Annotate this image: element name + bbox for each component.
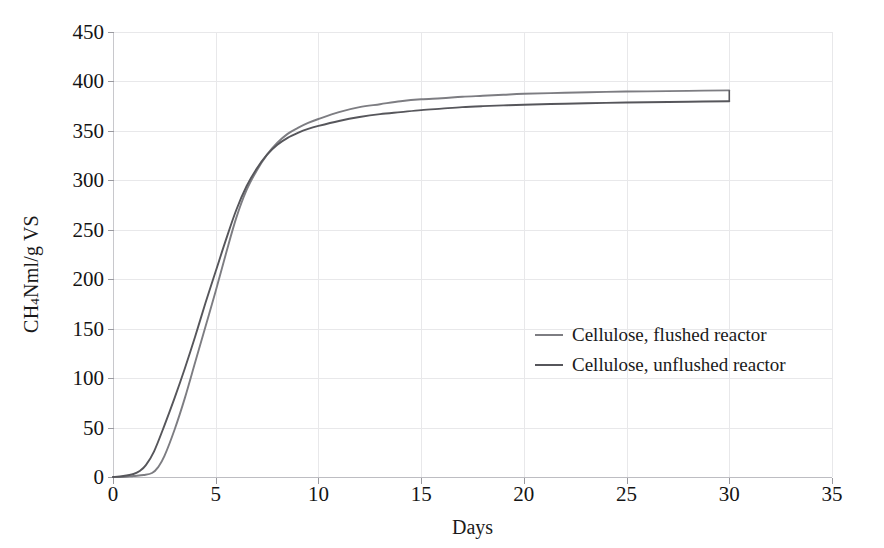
y-axis-tick-mark — [108, 81, 114, 82]
x-axis-tick-label: 20 — [499, 484, 549, 505]
legend-item-unflushed: Cellulose, unflushed reactor — [535, 355, 786, 374]
x-axis-tick-label: 5 — [191, 484, 241, 505]
x-axis-tick-mark — [832, 478, 833, 484]
y-axis-title-suffix: Nml/g VS — [20, 215, 43, 298]
gridline-horizontal — [113, 230, 832, 231]
y-axis-tick-label: 350 — [42, 120, 104, 141]
gridline-vertical — [216, 32, 217, 477]
legend-label-unflushed: Cellulose, unflushed reactor — [572, 355, 786, 374]
x-axis-tick-mark — [421, 478, 422, 484]
y-axis-tick-mark — [108, 428, 114, 429]
x-axis-tick-label: 10 — [293, 484, 343, 505]
y-axis-tick-label: 150 — [42, 318, 104, 339]
y-axis-tick-label: 200 — [42, 269, 104, 290]
x-axis-tick-mark — [524, 478, 525, 484]
y-axis-tick-label: 450 — [42, 22, 104, 43]
y-axis-tick-mark — [108, 230, 114, 231]
x-axis-tick-label: 0 — [88, 484, 138, 505]
gridline-horizontal — [113, 428, 832, 429]
legend-swatch-unflushed — [535, 364, 563, 366]
gridline-horizontal — [113, 180, 832, 181]
gridline-horizontal — [113, 378, 832, 379]
y-axis-tick-label: 100 — [42, 368, 104, 389]
x-axis-tick-label: 35 — [807, 484, 857, 505]
plot-area — [113, 32, 832, 477]
legend-item-flushed: Cellulose, flushed reactor — [535, 325, 786, 344]
x-axis-title: Days — [113, 516, 832, 539]
y-axis-tick-mark — [108, 32, 114, 33]
y-axis-tick-mark — [108, 279, 114, 280]
y-axis-title-subscript: 4 — [27, 298, 43, 305]
legend-swatch-flushed — [535, 334, 563, 336]
y-axis-tick-mark — [108, 378, 114, 379]
y-axis-tick-mark — [108, 329, 114, 330]
gridline-vertical — [729, 32, 730, 477]
x-axis-tick-mark — [318, 478, 319, 484]
chart-legend: Cellulose, flushed reactor Cellulose, un… — [535, 325, 786, 374]
y-axis-tick-mark — [108, 180, 114, 181]
y-axis-tick-label: 300 — [42, 170, 104, 191]
gridline-vertical — [832, 32, 833, 477]
x-axis-tick-mark — [729, 478, 730, 484]
x-axis-tick-label: 30 — [704, 484, 754, 505]
gridline-horizontal — [113, 32, 832, 33]
x-axis-tick-label: 25 — [602, 484, 652, 505]
y-axis-title-prefix: CH — [20, 305, 43, 333]
y-axis-tick-label: 50 — [42, 417, 104, 438]
x-axis-tick-mark — [216, 478, 217, 484]
gridline-vertical — [524, 32, 525, 477]
x-axis-spine — [113, 477, 832, 478]
y-axis-tick-label: 400 — [42, 71, 104, 92]
y-axis-tick-label: 250 — [42, 219, 104, 240]
gridline-horizontal — [113, 81, 832, 82]
x-axis-tick-mark — [113, 478, 114, 484]
gridline-vertical — [421, 32, 422, 477]
chart-figure: CH4 Nml/g VS 050100150200250300350400450… — [0, 0, 884, 548]
gridline-horizontal — [113, 279, 832, 280]
y-axis-spine — [113, 32, 114, 478]
y-axis-tick-mark — [108, 131, 114, 132]
gridline-horizontal — [113, 131, 832, 132]
x-axis-tick-mark — [627, 478, 628, 484]
legend-label-flushed: Cellulose, flushed reactor — [572, 325, 767, 344]
gridline-vertical — [318, 32, 319, 477]
x-axis-tick-label: 15 — [396, 484, 446, 505]
gridline-vertical — [627, 32, 628, 477]
